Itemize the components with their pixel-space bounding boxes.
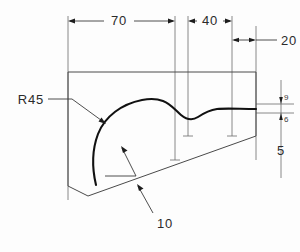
leader-r45: R45 bbox=[18, 92, 106, 124]
drawing-svg: 70 40 20 9 6 5 bbox=[0, 0, 300, 252]
arrow-left-icon bbox=[188, 19, 195, 24]
dimension-40-label: 40 bbox=[202, 13, 218, 28]
arrowhead-icon bbox=[137, 184, 144, 191]
center-marks bbox=[170, 136, 237, 160]
arrow-right-icon bbox=[225, 19, 232, 24]
thickness-10-label: 10 bbox=[157, 216, 173, 231]
arrow-right-icon bbox=[249, 38, 256, 42]
arrow-right-icon bbox=[168, 19, 175, 24]
dimension-20: 20 bbox=[232, 33, 297, 48]
dimension-9-label: 9 bbox=[284, 93, 289, 102]
outline-bottom-left-chamfer bbox=[68, 186, 88, 196]
leader-r45-line bbox=[72, 99, 105, 123]
leader-10: 10 bbox=[105, 146, 173, 231]
arrow-left-icon bbox=[232, 38, 239, 42]
technical-drawing-canvas: 70 40 20 9 6 5 bbox=[0, 0, 300, 252]
dimension-20-label: 20 bbox=[281, 33, 297, 48]
dimension-5-label: 5 bbox=[277, 143, 285, 158]
radius-r45-label: R45 bbox=[18, 92, 44, 107]
outline-bottom-slanted-edge bbox=[88, 136, 256, 196]
dimension-70-label: 70 bbox=[111, 13, 127, 28]
part-outline bbox=[68, 72, 256, 196]
arrow-down-icon bbox=[279, 113, 283, 120]
dimension-70: 70 bbox=[68, 12, 175, 28]
arrowhead-icon bbox=[121, 146, 128, 153]
arrow-up-icon bbox=[279, 97, 283, 104]
dimension-40: 40 bbox=[188, 12, 232, 28]
arrow-left-icon bbox=[68, 19, 75, 24]
dimension-vertical-stack: 9 6 5 bbox=[256, 93, 294, 158]
dimension-6-label: 6 bbox=[284, 115, 289, 124]
